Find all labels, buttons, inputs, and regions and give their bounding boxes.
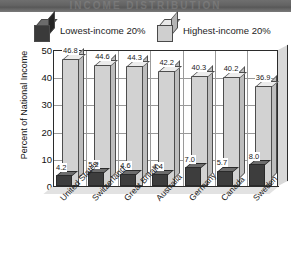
bar-value-label-highest: 40.2 [223, 64, 240, 73]
legend-label-highest-income: Highest-income 20% [183, 25, 271, 36]
bar-value-label-highest: 42.2 [158, 58, 175, 67]
bar-value-label-lowest: 4.2 [55, 163, 67, 172]
category-separator [183, 51, 184, 186]
chart-legend: Lowest-income 20% Highest-income 20% [0, 14, 291, 46]
y-tick-label: 10 [41, 153, 52, 164]
bar-value-label-lowest: 5.7 [216, 158, 228, 167]
page-header-band: INCOME DISTRIBUTION [0, 0, 291, 12]
light-cube-icon [157, 19, 176, 41]
legend-item-highest-income: Highest-income 20% [157, 14, 271, 46]
y-axis-ticks: 01020304050 [24, 44, 52, 194]
bar-value-label-lowest: 8.0 [248, 152, 260, 161]
legend-item-lowest-income: Lowest-income 20% [34, 14, 146, 46]
y-tick-label: 30 [41, 99, 52, 110]
y-tick-label: 40 [41, 72, 52, 83]
bar-value-label-lowest: 7.0 [184, 155, 196, 164]
x-axis-labels: United StatesSwitzerlandGreat BritainAus… [0, 188, 291, 262]
banner-ghost-text: INCOME DISTRIBUTION [0, 0, 291, 12]
bar-value-label-highest: 40.3 [191, 63, 208, 72]
plot-depth-wall [278, 45, 288, 186]
y-tick-label: 20 [41, 126, 52, 137]
bar-value-label-highest: 36.9 [255, 73, 272, 82]
dark-cube-icon [34, 19, 53, 41]
bar-value-label-highest: 44.6 [94, 52, 111, 61]
bar-value-label-highest: 44.3 [126, 53, 143, 62]
legend-label-lowest-income: Lowest-income 20% [60, 25, 146, 36]
bar-value-label-highest: 46.8 [62, 46, 79, 55]
y-tick-label: 50 [41, 45, 52, 56]
